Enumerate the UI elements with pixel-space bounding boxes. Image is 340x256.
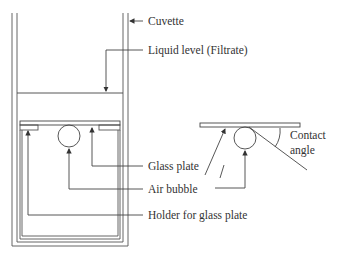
label-contact-angle-2: angle (290, 144, 315, 157)
bubble-contact-angle-diagram: Cuvette Liquid level (Filtrate) Glass pl… (0, 0, 340, 256)
leader-lines (28, 21, 143, 215)
label-holder: Holder for glass plate (148, 209, 247, 222)
glass-plate (20, 121, 120, 125)
label-liquid-level: Liquid level (Filtrate) (148, 44, 248, 57)
label-glass-plate: Glass plate (148, 160, 199, 173)
angle-arc (275, 128, 280, 147)
label-contact-angle-1: Contact (290, 129, 327, 141)
holder-for-glass-plate (20, 125, 120, 239)
label-cuvette: Cuvette (148, 15, 184, 27)
cuvette (12, 13, 128, 246)
label-air-bubble: Air bubble (148, 183, 198, 195)
air-bubble (58, 125, 80, 147)
detail-glass-plate (200, 123, 300, 127)
